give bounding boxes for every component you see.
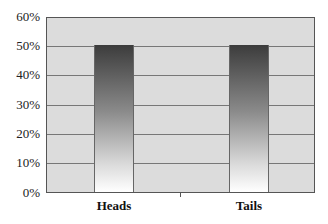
gridline	[47, 163, 314, 164]
y-tick-0: 0%	[0, 186, 40, 200]
y-tick-50: 50%	[0, 39, 40, 53]
bar-heads	[94, 45, 134, 192]
gridline	[47, 46, 314, 47]
plot-area	[46, 17, 315, 193]
gridline	[47, 134, 314, 135]
y-tick-60: 60%	[0, 10, 40, 24]
x-tick	[180, 192, 181, 197]
y-tick-40: 40%	[0, 68, 40, 82]
y-tick-20: 20%	[0, 127, 40, 141]
x-label-tails: Tails	[209, 198, 289, 214]
gridline	[47, 75, 314, 76]
x-label-heads: Heads	[74, 198, 154, 214]
bar-tails	[229, 45, 269, 192]
y-tick-10: 10%	[0, 156, 40, 170]
gridline	[47, 105, 314, 106]
y-tick-30: 30%	[0, 98, 40, 112]
